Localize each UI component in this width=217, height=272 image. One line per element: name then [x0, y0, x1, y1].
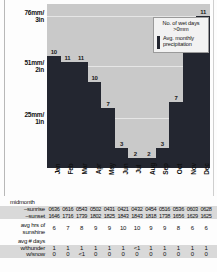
sunshine-value: 10 — [130, 225, 144, 232]
y-axis-tick-76mm: 76mm/ 3in — [0, 9, 44, 23]
snow-value: 0 — [171, 251, 185, 258]
month-cell: Jul — [128, 168, 142, 196]
sunrise-value: 0628 — [199, 206, 213, 213]
wet-days-label: 2 — [142, 151, 156, 157]
thunder-value: 1 — [199, 245, 213, 252]
legend-entry-line2: precipitation — [163, 41, 194, 47]
thunder-value: 1 — [158, 245, 172, 252]
y-axis-tick-line1: 51mm/ — [0, 59, 44, 66]
legend-swatch-icon — [157, 36, 160, 49]
midmonth-heading: midmonth — [0, 199, 35, 206]
thunder-value: 1 — [88, 245, 102, 252]
bar-cell: 11 — [61, 4, 75, 168]
sunset-value: 1843 — [130, 213, 144, 220]
climate-data-table: midmonth –sunrise 0636061605430502043104… — [0, 196, 217, 272]
month-cell: Aug — [142, 168, 156, 196]
month-label: Dec — [203, 163, 210, 174]
month-cell: May — [101, 168, 115, 196]
thunder-label: w/thunder — [0, 245, 47, 252]
wet-days-label: 7 — [169, 95, 183, 101]
sunrise-value: 0536 — [171, 206, 185, 213]
month-cell: Mar — [74, 168, 88, 196]
sunshine-value: 9 — [88, 225, 102, 232]
bar-cell: 3 — [115, 4, 129, 168]
legend-title-line2: >0mm — [157, 26, 205, 32]
sunrise-value: 0616 — [61, 206, 75, 213]
sunrise-row: –sunrise 0636061605430502043104210432045… — [0, 206, 217, 213]
snow-value: 0 — [102, 251, 116, 258]
wet-days-label: 11 — [196, 9, 210, 15]
precipitation-bar: 10 — [47, 56, 61, 168]
sunset-value: 1818 — [144, 213, 158, 220]
precipitation-bar: 7 — [169, 102, 183, 168]
thunder-value: 1 — [171, 245, 185, 252]
y-axis: 76mm/ 3in 51mm/ 2in 25mm/ 1in — [0, 0, 47, 168]
y-axis-tick-25mm: 25mm/ 1in — [0, 111, 44, 125]
sunset-row: –sunset 16461716173918021825184318431818… — [0, 213, 217, 220]
snow-value: 0 — [144, 251, 158, 258]
y-axis-tick-line1: 76mm/ — [0, 9, 44, 16]
snow-value: 0 — [47, 251, 61, 258]
thunder-value: 1 — [75, 245, 89, 252]
wet-days-label: 3 — [115, 141, 129, 147]
sunshine-label-line2: sunshine — [0, 229, 45, 235]
thunder-value: 1 — [185, 245, 199, 252]
wet-days-label: 10 — [47, 49, 61, 55]
sunshine-value: 8 — [171, 225, 185, 232]
snow-value: 0 — [199, 251, 213, 258]
sunset-label: –sunset — [0, 213, 47, 220]
y-axis-tick-line2: 1in — [0, 118, 44, 125]
sunset-value: 1738 — [158, 213, 172, 220]
sunrise-value: 0543 — [75, 206, 89, 213]
snow-value: 0 — [61, 251, 75, 258]
climate-chart-page: 76mm/ 3in 51mm/ 2in 25mm/ 1in 1011111073… — [0, 0, 217, 272]
thunder-value: 1 — [47, 245, 61, 252]
month-cell: Jan — [47, 168, 61, 196]
legend-entry-precipitation: Avg. monthly precipitation — [157, 35, 205, 49]
sunset-value: 1646 — [47, 213, 61, 220]
month-cell: Dec — [196, 168, 210, 196]
sunrise-value: 0636 — [47, 206, 61, 213]
sunshine-value: 9 — [102, 225, 116, 232]
month-cell: Oct — [169, 168, 183, 196]
snow-row: w/snow 00<1000000000 — [0, 251, 217, 258]
month-cell: Jun — [115, 168, 129, 196]
precipitation-chart: 76mm/ 3in 51mm/ 2in 25mm/ 1in 1011111073… — [0, 0, 217, 196]
wet-days-label: 7 — [101, 101, 115, 107]
sunshine-value: 7 — [61, 225, 75, 232]
sunrise-value: 0421 — [116, 206, 130, 213]
sunset-label-text: sunset — [29, 213, 45, 219]
sunshine-value: 8 — [75, 225, 89, 232]
bar-cell: 7 — [101, 4, 115, 168]
snow-label: w/snow — [0, 251, 47, 258]
sunset-value: 1739 — [75, 213, 89, 220]
y-axis-tick-line2: 3in — [0, 16, 44, 23]
bar-cell: 11 — [74, 4, 88, 168]
snow-value: <1 — [75, 251, 89, 258]
sunshine-value: 6 — [199, 225, 213, 232]
wet-days-label: 10 — [88, 75, 102, 81]
thunder-value: 1 — [144, 245, 158, 252]
month-cell: Feb — [61, 168, 75, 196]
thunder-value: <1 — [130, 245, 144, 252]
plot-area: 101111107322371011 No. of wet days >0mm … — [47, 4, 210, 168]
chart-legend: No. of wet days >0mm Avg. monthly precip… — [153, 17, 209, 53]
sunshine-value: 6 — [185, 225, 199, 232]
sunshine-value: 6 — [47, 225, 61, 232]
bar-cell: 10 — [47, 4, 61, 168]
thunder-value: 1 — [116, 245, 130, 252]
y-axis-tick-line2: 2in — [0, 66, 44, 73]
sunrise-value: 0516 — [158, 206, 172, 213]
sunrise-value: 0432 — [130, 206, 144, 213]
thunder-row: w/thunder 111111<111111 — [0, 245, 217, 252]
sunset-value: 1629 — [185, 213, 199, 220]
bar-cell: 10 — [88, 4, 102, 168]
month-cell: Apr — [88, 168, 102, 196]
sunrise-value: 0454 — [144, 206, 158, 213]
thunder-value: 1 — [61, 245, 75, 252]
snow-value: 0 — [88, 251, 102, 258]
sunset-value: 1843 — [116, 213, 130, 220]
sunset-values: 1646171617391802182518431843181817381656… — [47, 213, 217, 220]
midmonth-heading-row: midmonth — [0, 199, 217, 206]
wet-days-label: 11 — [61, 55, 75, 61]
